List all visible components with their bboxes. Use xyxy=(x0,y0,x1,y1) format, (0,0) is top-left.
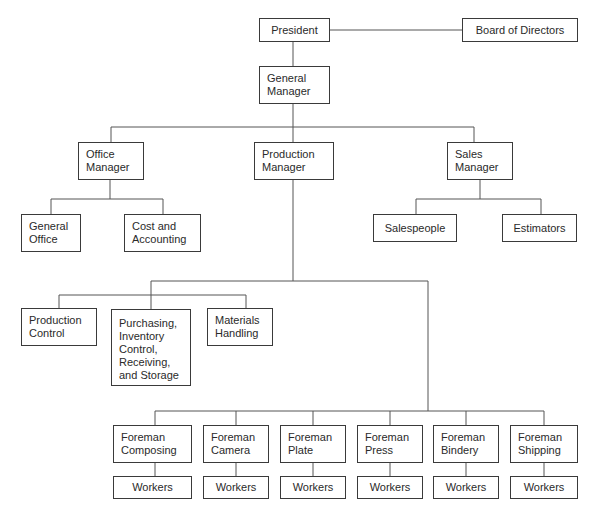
node-general-manager: General Manager xyxy=(259,66,330,104)
node-label: President xyxy=(271,24,317,37)
node-label: Materials Handling xyxy=(215,314,260,340)
node-workers-camera: Workers xyxy=(203,476,269,499)
node-workers-plate: Workers xyxy=(280,476,346,499)
node-label: Workers xyxy=(293,481,334,494)
node-label: Foreman Camera xyxy=(211,431,255,457)
node-label: Workers xyxy=(524,481,565,494)
node-foreman-bindery: Foreman Bindery xyxy=(433,425,499,463)
node-label: General Office xyxy=(29,220,68,246)
node-label: Sales Manager xyxy=(455,148,498,174)
node-production-control: Production Control xyxy=(21,308,97,346)
node-label: Cost and Accounting xyxy=(132,220,186,246)
node-label: Foreman Shipping xyxy=(518,431,562,457)
node-salespeople: Salespeople xyxy=(373,214,457,242)
node-label: Estimators xyxy=(514,222,566,235)
node-label: Workers xyxy=(446,481,487,494)
node-label: Board of Directors xyxy=(476,24,565,37)
node-materials-handling: Materials Handling xyxy=(207,308,273,346)
node-office-manager: Office Manager xyxy=(78,142,144,180)
node-sales-manager: Sales Manager xyxy=(447,142,513,180)
node-foreman-press: Foreman Press xyxy=(357,425,423,463)
node-production-manager: Production Manager xyxy=(254,142,334,180)
node-foreman-plate: Foreman Plate xyxy=(280,425,346,463)
node-label: Foreman Bindery xyxy=(441,431,485,457)
node-purchasing-inventory-receiving-storage: Purchasing, Inventory Control, Receiving… xyxy=(111,309,191,386)
node-label: Purchasing, Inventory Control, Receiving… xyxy=(119,317,179,382)
node-workers-bindery: Workers xyxy=(433,476,499,499)
node-workers-composing: Workers xyxy=(113,476,192,499)
node-foreman-shipping: Foreman Shipping xyxy=(510,425,578,463)
node-label: Workers xyxy=(132,481,173,494)
node-label: Foreman Composing xyxy=(121,431,177,457)
node-label: General Manager xyxy=(267,72,310,98)
node-general-office: General Office xyxy=(21,214,81,252)
node-workers-shipping: Workers xyxy=(510,476,578,499)
node-foreman-composing: Foreman Composing xyxy=(113,425,192,463)
node-label: Production Control xyxy=(29,314,82,340)
node-label: Foreman Press xyxy=(365,431,409,457)
node-label: Workers xyxy=(216,481,257,494)
node-label: Workers xyxy=(370,481,411,494)
node-workers-press: Workers xyxy=(357,476,423,499)
node-cost-and-accounting: Cost and Accounting xyxy=(124,214,201,252)
node-board-of-directors: Board of Directors xyxy=(462,18,578,42)
node-foreman-camera: Foreman Camera xyxy=(203,425,269,463)
node-label: Foreman Plate xyxy=(288,431,332,457)
node-president: President xyxy=(259,18,330,42)
node-label: Office Manager xyxy=(86,148,129,174)
node-estimators: Estimators xyxy=(502,214,577,242)
node-label: Production Manager xyxy=(262,148,315,174)
node-label: Salespeople xyxy=(385,222,446,235)
